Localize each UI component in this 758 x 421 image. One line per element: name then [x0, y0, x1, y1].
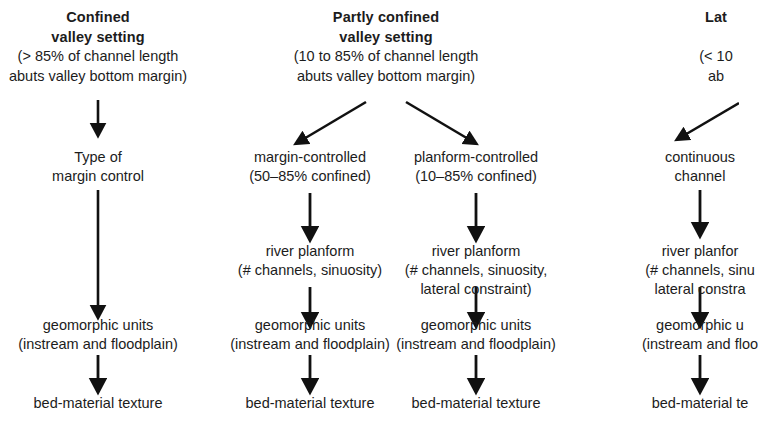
node-line: (# channels, sinuosity)	[238, 261, 382, 280]
header-line: Lat	[699, 8, 732, 28]
node-bed-material-texture-col4: bed-material te	[652, 394, 749, 413]
node-line: geomorphic units	[396, 316, 556, 335]
node-planform-controlled: planform-controlled (10–85% confined)	[414, 148, 538, 186]
node-line: bed-material texture	[246, 394, 375, 413]
node-line: continuous	[665, 148, 735, 167]
node-line: (instream and floo	[642, 335, 758, 354]
node-line: (# channels, sinuosity,	[405, 261, 547, 280]
header-line: abuts valley bottom margin)	[294, 67, 479, 87]
node-line: bed-material texture	[34, 394, 163, 413]
node-line: river planfor	[645, 242, 755, 261]
node-line: (50–85% confined)	[249, 167, 371, 186]
node-geomorphic-units-col4: geomorphic u (instream and floo	[642, 316, 758, 354]
node-line: river planform	[405, 242, 547, 261]
header-line: (> 85% of channel length	[9, 47, 187, 67]
header-line: valley setting	[294, 28, 479, 48]
header-line: Confined	[9, 8, 187, 28]
node-line: geomorphic units	[230, 316, 390, 335]
header-line: valley setting	[9, 28, 187, 48]
node-line: margin-controlled	[249, 148, 371, 167]
node-bed-material-texture-col2: bed-material texture	[246, 394, 375, 413]
node-line: bed-material texture	[412, 394, 541, 413]
node-line: lateral constra	[645, 280, 755, 299]
header-line: (< 10	[699, 47, 732, 67]
header-line: ab	[699, 67, 732, 87]
arrow-partly-confined-to-planform-controlled	[406, 102, 470, 140]
node-line: planform-controlled	[414, 148, 538, 167]
node-line: geomorphic units	[18, 316, 178, 335]
header-confined-valley-setting: Confined valley setting (> 85% of channe…	[9, 8, 187, 86]
node-geomorphic-units-col2: geomorphic units (instream and floodplai…	[230, 316, 390, 354]
node-line: (instream and floodplain)	[18, 335, 178, 354]
node-line: river planform	[238, 242, 382, 261]
node-line: (10–85% confined)	[414, 167, 538, 186]
node-river-planform-col4: river planfor (# channels, sinu lateral …	[645, 242, 755, 299]
node-line: (instream and floodplain)	[230, 335, 390, 354]
node-continuous-channel: continuous channel	[665, 148, 735, 186]
arrow-laterally-unconfined-to-continuous-channel	[683, 103, 739, 136]
header-partly-confined-valley-setting: Partly confined valley setting (10 to 85…	[294, 8, 479, 86]
node-river-planform-col2: river planform (# channels, sinuosity)	[238, 242, 382, 280]
node-margin-controlled: margin-controlled (50–85% confined)	[249, 148, 371, 186]
node-geomorphic-units-col1: geomorphic units (instream and floodplai…	[18, 316, 178, 354]
header-line: abuts valley bottom margin)	[9, 67, 187, 87]
node-bed-material-texture-col3: bed-material texture	[412, 394, 541, 413]
node-line: geomorphic u	[642, 316, 758, 335]
node-line: bed-material te	[652, 394, 749, 413]
header-laterally-unconfined-valley-setting: Lat (< 10 ab	[699, 8, 732, 86]
node-line: channel	[665, 167, 735, 186]
node-line: (# channels, sinu	[645, 261, 755, 280]
node-bed-material-texture-col1: bed-material texture	[34, 394, 163, 413]
arrow-partly-confined-to-margin-controlled	[302, 102, 366, 140]
node-line: margin control	[52, 167, 144, 186]
header-line-spacer	[699, 28, 732, 48]
node-line: (instream and floodplain)	[396, 335, 556, 354]
header-line: Partly confined	[294, 8, 479, 28]
node-geomorphic-units-col3: geomorphic units (instream and floodplai…	[396, 316, 556, 354]
node-river-planform-col3: river planform (# channels, sinuosity, l…	[405, 242, 547, 299]
node-line: lateral constraint)	[405, 280, 547, 299]
header-line: (10 to 85% of channel length	[294, 47, 479, 67]
node-line: Type of	[52, 148, 144, 167]
node-type-of-margin-control: Type of margin control	[52, 148, 144, 186]
